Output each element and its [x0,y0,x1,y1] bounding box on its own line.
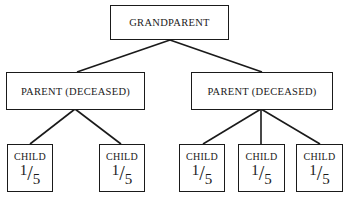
parent-label: PARENT (DECEASED) [21,86,130,97]
edge-grandparent-parent-1 [77,40,170,72]
fraction-slash: / [119,162,125,184]
share-numerator: 1 [112,162,120,178]
inheritance-share: 1/5 [20,163,41,183]
share-denominator: 5 [205,171,213,187]
child-node: CHILD 1/5 [179,144,225,192]
child-node: CHILD 1/5 [238,144,285,192]
edge-parent-1-child-1 [30,109,75,144]
share-numerator: 1 [309,162,317,178]
parent-node-1: PARENT (DECEASED) [6,72,145,110]
fraction-slash: / [199,162,205,184]
child-node: CHILD 1/5 [296,144,343,192]
child-label: CHILD [245,151,277,162]
parent-node-2: PARENT (DECEASED) [191,72,333,110]
parent-label: PARENT (DECEASED) [207,86,316,97]
share-denominator: 5 [322,171,330,187]
inheritance-share: 1/5 [309,163,330,183]
grandparent-node: GRANDPARENT [110,5,229,40]
inheritance-share: 1/5 [112,163,133,183]
child-label: CHILD [186,151,218,162]
edge-grandparent-parent-2 [170,40,262,72]
share-denominator: 5 [33,171,41,187]
child-node: CHILD 1/5 [99,144,145,192]
edge-parent-2-child-1 [203,109,261,144]
child-label: CHILD [14,151,46,162]
fraction-slash: / [27,162,33,184]
share-numerator: 1 [192,162,200,178]
share-numerator: 1 [251,162,259,178]
edge-parent-1-child-2 [75,109,121,144]
share-denominator: 5 [125,171,133,187]
child-label: CHILD [106,151,138,162]
grandparent-label: GRANDPARENT [129,17,210,28]
inheritance-share: 1/5 [251,163,272,183]
share-denominator: 5 [264,171,272,187]
child-label: CHILD [303,151,335,162]
child-node: CHILD 1/5 [7,144,53,192]
edge-parent-2-child-3 [261,109,320,144]
inheritance-share: 1/5 [192,163,213,183]
share-numerator: 1 [20,162,28,178]
